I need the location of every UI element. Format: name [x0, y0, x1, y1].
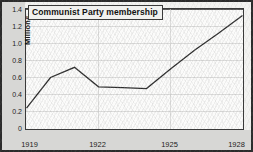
y-tick-label: 1.4 — [12, 5, 22, 12]
chart-figure: Communist Party membership Millions 00.2… — [0, 0, 253, 152]
vertical-gridlines — [99, 9, 171, 129]
y-tick-label: 0.4 — [12, 90, 22, 97]
y-axis-tick-labels: 00.20.40.60.81.01.21.4 — [0, 0, 24, 152]
plot-area — [25, 8, 244, 130]
x-tick-label: 1928 — [228, 140, 245, 149]
y-tick-label: 1.2 — [12, 22, 22, 29]
x-tick-label: 1925 — [161, 140, 178, 149]
y-tick-label: 1.0 — [12, 39, 22, 46]
horizontal-gridlines — [26, 10, 243, 112]
x-tick-label: 1922 — [89, 140, 106, 149]
chart-plot-svg — [26, 9, 243, 129]
x-tick-label: 1919 — [21, 140, 38, 149]
x-axis-tick-labels: 1919192219251928 — [0, 137, 253, 149]
y-tick-label: 0.6 — [12, 73, 22, 80]
y-tick-label: 0 — [18, 124, 22, 131]
y-tick-label: 0.2 — [12, 107, 22, 114]
chart-title: Communist Party membership — [28, 5, 163, 20]
y-tick-label: 0.8 — [12, 56, 22, 63]
